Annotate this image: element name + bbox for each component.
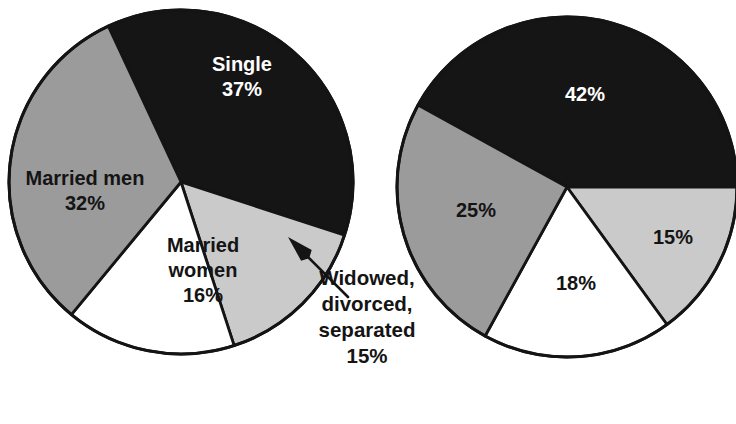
right-label-18: 18%: [556, 272, 596, 294]
left-pie-chart: Single37% Marriedwomen16% Married men32%…: [9, 10, 415, 367]
right-pie-chart: 42% 15% 18% 25%: [397, 17, 736, 357]
right-label-15: 15%: [653, 226, 693, 248]
right-label-25: 25%: [456, 199, 496, 221]
callout-label: Widowed,divorced,separated15%: [319, 266, 416, 367]
widowed-callout: Widowed,divorced,separated15%: [288, 237, 415, 367]
right-label-42: 42%: [565, 83, 605, 105]
two-pie-charts-figure: Single37% Marriedwomen16% Married men32%…: [0, 0, 736, 424]
